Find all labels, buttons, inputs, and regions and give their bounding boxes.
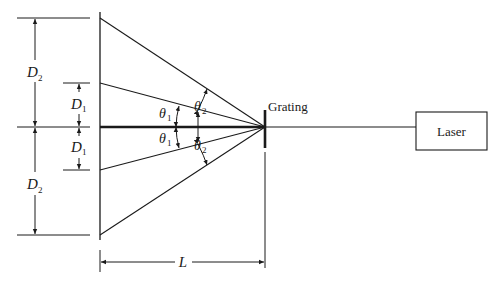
theta1-top-arc	[176, 106, 179, 127]
theta1-bottom-label: θ 1	[159, 131, 172, 148]
l-label: L	[178, 254, 187, 270]
svg-text:1: 1	[82, 147, 87, 157]
svg-text:1: 1	[167, 113, 172, 123]
svg-text:2: 2	[38, 185, 43, 195]
svg-text:D: D	[26, 176, 38, 192]
svg-text:θ: θ	[194, 138, 201, 153]
d2-bottom-label: D 2	[26, 176, 43, 195]
theta1-bottom-arc	[176, 127, 179, 148]
theta2-bottom-label: θ 2	[194, 138, 207, 155]
grating-label: Grating	[268, 99, 308, 114]
svg-text:2: 2	[38, 73, 43, 83]
ray-order1-bottom	[100, 127, 265, 170]
svg-text:1: 1	[167, 138, 172, 148]
ray-order1-top	[100, 83, 265, 127]
svg-text:D: D	[26, 64, 38, 80]
d1-bottom-label: D 1	[70, 139, 87, 157]
svg-text:1: 1	[82, 104, 87, 114]
theta2-top-label: θ 2	[194, 99, 207, 116]
ray-order2-bottom	[100, 127, 265, 235]
theta1-top-label: θ 1	[159, 106, 172, 123]
laser-label: Laser	[437, 124, 467, 139]
d1-top-label: D 1	[70, 96, 87, 114]
svg-text:θ: θ	[159, 106, 166, 121]
d2-top-label: D 2	[26, 64, 43, 83]
svg-text:D: D	[70, 139, 82, 155]
diffraction-diagram: Grating Laser D 2 D 2 D 1 D 1 θ 1 θ 1	[0, 0, 501, 283]
ray-order2-top	[100, 18, 265, 127]
svg-text:2: 2	[202, 145, 207, 155]
svg-text:θ: θ	[159, 131, 166, 146]
svg-text:D: D	[70, 96, 82, 112]
svg-text:2: 2	[202, 106, 207, 116]
svg-text:θ: θ	[194, 99, 201, 114]
